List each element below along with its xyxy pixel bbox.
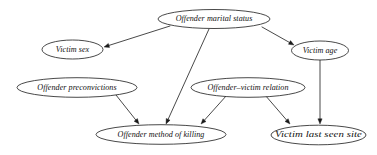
arrowhead-icon bbox=[166, 118, 170, 124]
graph-edge bbox=[265, 95, 290, 124]
arrowhead-icon bbox=[318, 119, 322, 124]
graph-edge bbox=[262, 27, 294, 45]
node-label: Victim age bbox=[303, 46, 338, 55]
arrowhead-icon bbox=[288, 41, 294, 45]
graph-node-offender-preconvictions[interactable]: Offender preconvictions bbox=[17, 78, 137, 98]
graph-edge bbox=[116, 95, 139, 124]
graph-edge bbox=[201, 95, 227, 124]
node-label: Offender marital status bbox=[176, 14, 253, 23]
graph-node-victim-age[interactable]: Victim age bbox=[292, 41, 349, 60]
graph-node-offender-marital-status[interactable]: Offender marital status bbox=[158, 10, 270, 29]
arrowhead-icon bbox=[104, 43, 110, 47]
node-label: Offender preconvictions bbox=[37, 83, 116, 92]
node-layer: Offender marital statusVictim sexVictim … bbox=[17, 10, 366, 145]
graph-node-victim-last-seen-site[interactable]: Victim last seen site bbox=[271, 125, 366, 145]
edge-layer bbox=[104, 26, 322, 124]
graph-edge bbox=[166, 29, 209, 124]
arrowhead-icon bbox=[134, 119, 139, 124]
graph-node-offender-method-of-killing[interactable]: Offender method of killing bbox=[96, 125, 226, 145]
graph-node-victim-sex[interactable]: Victim sex bbox=[42, 40, 103, 59]
node-label: Victim last seen site bbox=[275, 130, 362, 139]
graph-node-offender-victim-relation[interactable]: Offender–victim relation bbox=[191, 78, 305, 98]
node-label: Victim sex bbox=[56, 45, 90, 54]
node-label: Offender–victim relation bbox=[207, 83, 288, 92]
diagram-canvas: Offender marital statusVictim sexVictim … bbox=[0, 0, 377, 155]
graph-svg: Offender marital statusVictim sexVictim … bbox=[0, 0, 377, 155]
node-label: Offender method of killing bbox=[118, 130, 205, 139]
graph-edge bbox=[318, 60, 322, 124]
graph-edge bbox=[104, 26, 170, 47]
